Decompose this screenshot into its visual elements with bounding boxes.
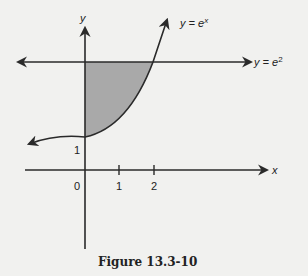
curve-label-base: y = e [179,17,204,29]
line-label-base: y = e [253,56,278,68]
x-tick-label-1: 1 [116,180,122,192]
figure-canvas: y x y = ex y = e2 1 0 1 2 Figure 13.3-10 [0,0,308,276]
figure-caption: Figure 13.3-10 [98,255,197,269]
x-tick-label-2: 2 [151,180,157,192]
y-intercept-label: 1 [74,144,80,156]
shaded-region [85,62,153,137]
x-axis-label: x [271,164,278,176]
line-label-exponent: 2 [278,55,283,64]
x-tick-label-0: 0 [74,180,80,192]
curve-label-exponent: x [203,16,209,25]
y-axis-label: y [79,12,87,24]
curve-label: y = ex [179,16,209,29]
line-label: y = e2 [253,55,283,68]
